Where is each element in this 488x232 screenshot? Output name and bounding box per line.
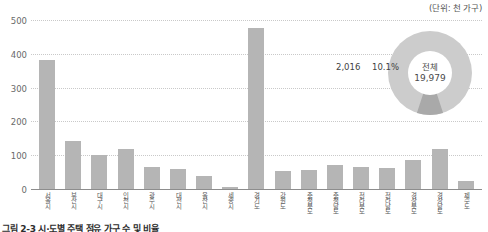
x-label-slot: 경상북도	[400, 192, 426, 224]
donut-chart: 전체 19,979	[382, 25, 478, 121]
bar-대구시	[91, 155, 107, 189]
y-tick-label-0: 0	[22, 185, 27, 195]
x-label-slot: 전라북도	[348, 192, 374, 224]
x-label-slot: 대구시	[86, 192, 112, 224]
bar-충청북도	[301, 170, 317, 189]
x-label-slot: 경상남도	[427, 192, 453, 224]
chart-figure: (단위: 천 가구) 0100200300400500 서울시부산시대구시인천시…	[0, 0, 488, 232]
bar-경상남도	[432, 149, 448, 189]
bar-slot	[139, 21, 165, 189]
x-axis-label-서울시: 서울시	[44, 192, 50, 208]
donut-hole	[408, 51, 452, 95]
x-axis-label-전라북도: 전라북도	[358, 192, 364, 214]
y-tick-label-400: 400	[11, 50, 27, 60]
x-axis-label-대전시: 대전시	[175, 192, 181, 208]
bar-경상북도	[405, 160, 421, 189]
unit-note: (단위: 천 가구)	[429, 1, 482, 13]
bar-slot	[191, 21, 217, 189]
x-axis-label-경기도: 경기도	[253, 192, 259, 208]
donut-svg	[382, 25, 478, 121]
bar-전라북도	[353, 167, 369, 189]
x-label-slot: 제주도	[453, 192, 479, 224]
bar-slot	[270, 21, 296, 189]
bar-slot	[34, 21, 60, 189]
x-label-slot: 경기도	[243, 192, 269, 224]
bar-slot	[217, 21, 243, 189]
x-label-slot: 광주시	[139, 192, 165, 224]
bar-slot	[60, 21, 86, 189]
bar-대전시	[170, 169, 186, 189]
y-tick-label-300: 300	[11, 84, 27, 94]
bar-slot	[113, 21, 139, 189]
x-axis-label-경상북도: 경상북도	[410, 192, 416, 214]
x-axis-label-경상남도: 경상남도	[436, 192, 442, 214]
x-label-slot: 울산시	[191, 192, 217, 224]
bar-부산시	[65, 141, 81, 189]
x-axis-label-제주도: 제주도	[463, 192, 469, 208]
bar-slot	[86, 21, 112, 189]
x-axis-label-전라남도: 전라남도	[384, 192, 390, 214]
bar-slot	[243, 21, 269, 189]
bar-제주도	[458, 181, 474, 189]
x-label-slot: 대전시	[165, 192, 191, 224]
x-label-slot: 충청남도	[322, 192, 348, 224]
bar-경기도	[248, 28, 264, 189]
x-axis-label-강원도: 강원도	[279, 192, 285, 208]
x-axis-label-세종시: 세종시	[227, 192, 233, 208]
x-axis-label-부산시: 부산시	[70, 192, 76, 208]
bar-slot	[165, 21, 191, 189]
donut-slice-percent: 10.1%	[372, 62, 399, 72]
x-label-slot: 강원도	[270, 192, 296, 224]
bar-전라남도	[379, 168, 395, 189]
y-tick-label-500: 500	[11, 16, 27, 26]
x-label-slot: 세종시	[217, 192, 243, 224]
bar-충청남도	[327, 165, 343, 189]
x-axis-label-광주시: 광주시	[149, 192, 155, 208]
y-tick-label-200: 200	[11, 117, 27, 127]
donut-slice-value: 2,016	[336, 62, 360, 72]
x-axis-label-인천시: 인천시	[122, 192, 128, 208]
bar-광주시	[144, 167, 160, 190]
x-axis-label-충청남도: 충청남도	[332, 192, 338, 214]
x-label-slot: 서울시	[34, 192, 60, 224]
x-label-slot: 전라남도	[374, 192, 400, 224]
x-label-slot: 인천시	[113, 192, 139, 224]
bar-slot	[322, 21, 348, 189]
x-axis-label-울산시: 울산시	[201, 192, 207, 208]
figure-caption: 그림 2-3 시·도별 주택 점유 가구 수 및 비율	[2, 222, 159, 232]
y-tick-label-100: 100	[11, 151, 27, 161]
bar-slot	[348, 21, 374, 189]
bar-서울시	[39, 60, 55, 189]
x-axis-line	[31, 189, 482, 190]
x-axis-label-대구시: 대구시	[96, 192, 102, 208]
x-axis-label-충청북도: 충청북도	[306, 192, 312, 214]
x-axis-labels: 서울시부산시대구시인천시광주시대전시울산시세종시경기도강원도충청북도충청남도전라…	[31, 192, 482, 224]
bar-울산시	[196, 176, 212, 189]
bar-인천시	[118, 149, 134, 189]
x-label-slot: 부산시	[60, 192, 86, 224]
x-label-slot: 충청북도	[296, 192, 322, 224]
bar-slot	[296, 21, 322, 189]
bar-강원도	[275, 171, 291, 189]
